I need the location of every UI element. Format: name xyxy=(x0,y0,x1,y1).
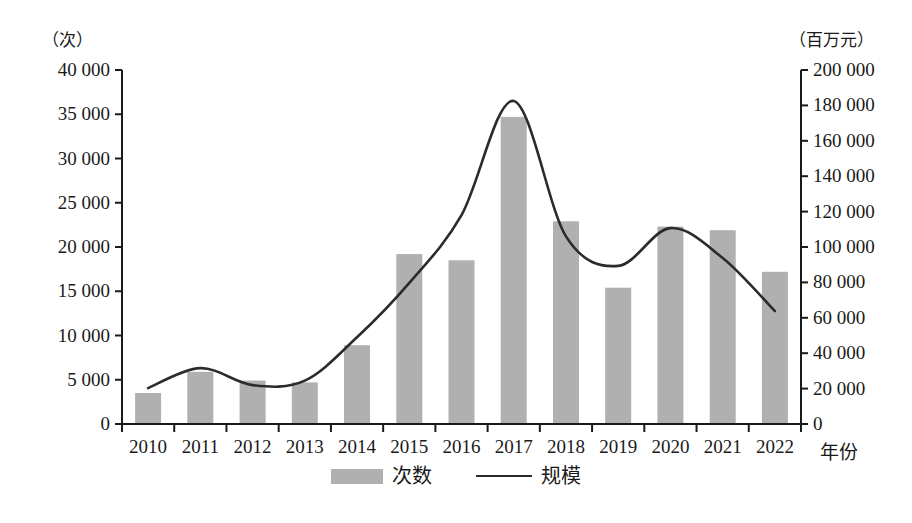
left-axis-tick-label: 0 xyxy=(101,414,111,433)
bar-2015 xyxy=(396,254,422,424)
bar-2019 xyxy=(605,288,631,424)
right-axis-tick-label: 100 000 xyxy=(813,237,875,256)
bar-2014 xyxy=(344,345,370,424)
legend-bar-swatch-icon xyxy=(331,469,383,484)
right-axis-tick-label: 200 000 xyxy=(813,60,875,79)
x-axis-tick-label: 2022 xyxy=(747,437,803,456)
x-axis-tick-label: 2011 xyxy=(172,437,228,456)
chart-legend: 次数 规模 xyxy=(0,466,912,486)
left-axis-tick-label: 15 000 xyxy=(58,281,110,300)
legend-label-bar: 次数 xyxy=(392,466,432,486)
bar-2018 xyxy=(553,221,579,424)
right-axis-tick-label: 60 000 xyxy=(813,308,865,327)
legend-item-bar: 次数 xyxy=(331,466,432,486)
bar-2010 xyxy=(135,393,161,424)
right-axis-tick-label: 160 000 xyxy=(813,131,875,150)
right-axis-tick-label: 180 000 xyxy=(813,95,875,114)
x-axis-tick-label: 2021 xyxy=(695,437,751,456)
bar-2011 xyxy=(187,372,213,424)
x-axis-tick-label: 2017 xyxy=(486,437,542,456)
left-axis-tick-label: 20 000 xyxy=(58,237,110,256)
right-axis-tick-label: 0 xyxy=(813,414,823,433)
x-axis-tick-label: 2013 xyxy=(277,437,333,456)
bar-2016 xyxy=(449,260,475,424)
x-axis-title: 年份 xyxy=(820,437,858,464)
left-axis-tick-label: 40 000 xyxy=(58,60,110,79)
x-axis-tick-label: 2014 xyxy=(329,437,385,456)
bar-2022 xyxy=(762,272,788,424)
right-axis-tick-label: 120 000 xyxy=(813,202,875,221)
chart-container: （次） （百万元） 05 00010 00015 00020 00025 000… xyxy=(0,0,912,523)
left-axis-tick-label: 35 000 xyxy=(58,104,110,123)
right-axis-tick-label: 80 000 xyxy=(813,272,865,291)
x-axis-tick-label: 2012 xyxy=(225,437,281,456)
bar-2020 xyxy=(657,227,683,424)
legend-item-line: 规模 xyxy=(476,466,581,486)
legend-label-line: 规模 xyxy=(541,466,581,486)
right-axis-tick-label: 140 000 xyxy=(813,166,875,185)
x-axis-tick-label: 2016 xyxy=(434,437,490,456)
legend-line-swatch-icon xyxy=(476,475,532,477)
right-axis-tick-label: 40 000 xyxy=(813,343,865,362)
x-axis-tick-label: 2018 xyxy=(538,437,594,456)
x-axis-tick-label: 2010 xyxy=(120,437,176,456)
left-axis-tick-label: 10 000 xyxy=(58,326,110,345)
left-axis-tick-label: 30 000 xyxy=(58,149,110,168)
left-axis-tick-label: 25 000 xyxy=(58,193,110,212)
x-axis-tick-label: 2019 xyxy=(590,437,646,456)
bar-2017 xyxy=(501,117,527,424)
right-axis-tick-label: 20 000 xyxy=(813,379,865,398)
left-axis-tick-label: 5 000 xyxy=(67,370,110,389)
x-axis-tick-label: 2020 xyxy=(642,437,698,456)
bar-2013 xyxy=(292,382,318,424)
x-axis-tick-label: 2015 xyxy=(381,437,437,456)
